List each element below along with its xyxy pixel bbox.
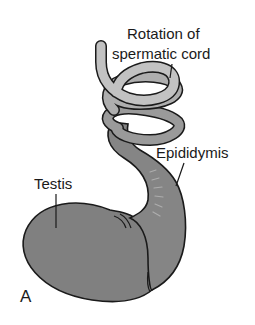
epididymis-label: Epididymis <box>156 144 229 161</box>
testis-label: Testis <box>34 175 72 192</box>
rotation-label-line2: spermatic cord <box>112 45 210 62</box>
panel-letter: A <box>20 288 31 305</box>
epididymis-leader-line <box>176 163 184 186</box>
diagram-canvas: Rotation of spermatic cord Epididymis Te… <box>0 0 255 325</box>
rotation-label-line1: Rotation of <box>127 25 200 42</box>
